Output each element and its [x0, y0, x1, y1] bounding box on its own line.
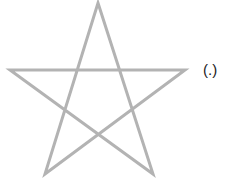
diagram-canvas: (.)	[0, 0, 227, 192]
pentagram-outline	[10, 3, 185, 174]
diagram-label: (.)	[203, 61, 217, 79]
pentagram-star-icon	[0, 0, 227, 192]
